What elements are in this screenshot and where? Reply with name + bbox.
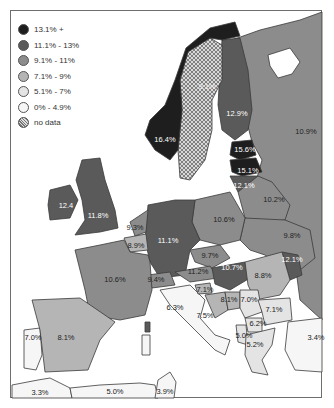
label-belarus: 10.2% xyxy=(263,195,285,204)
legend-label: 5.1% - 7% xyxy=(34,87,71,96)
label-lithuania: 12.1% xyxy=(233,181,255,190)
label-ireland: 12.4 xyxy=(59,201,74,210)
label-netherlands: 9.3% xyxy=(126,223,143,232)
label-albania: 5.0% xyxy=(235,331,252,340)
legend-hatch-icon xyxy=(18,117,29,128)
region-uk[interactable] xyxy=(75,158,118,235)
label-algeria: 5.0% xyxy=(106,387,123,396)
legend-item: no data xyxy=(18,115,128,131)
label-uk: 11.8% xyxy=(88,211,109,220)
label-ukraine: 9.8% xyxy=(283,231,300,240)
legend-label: 13.1% + xyxy=(34,25,64,34)
legend-item: 11.1% - 13% xyxy=(18,38,128,54)
legend-swatch-icon xyxy=(18,71,29,82)
region-turkey[interactable] xyxy=(285,318,322,372)
legend-swatch-icon xyxy=(18,55,29,66)
legend-label: 9.1% - 11% xyxy=(34,56,75,65)
label-tunisia: 3.9% xyxy=(156,387,173,396)
label-bosnia: 8.1% xyxy=(220,295,237,304)
label-serbia: 7.0% xyxy=(240,295,257,304)
label-portugal: 7.0% xyxy=(24,333,41,342)
legend-label: 7.1% - 9% xyxy=(34,72,71,81)
label-czech: 9.7% xyxy=(201,251,218,260)
label-latvia: 15.1% xyxy=(237,166,259,175)
legend-label: 0% - 4.9% xyxy=(34,103,71,112)
label-morocco: 3.3% xyxy=(31,388,48,397)
legend-item: 7.1% - 9% xyxy=(18,69,128,85)
label-russia: 10.9% xyxy=(295,127,317,136)
legend-label: no data xyxy=(34,118,61,127)
label-germany: 11.1% xyxy=(158,236,179,245)
label-romania: 8.8% xyxy=(254,271,271,280)
label-turkey: 3.4% xyxy=(307,333,324,342)
legend-swatch-icon xyxy=(18,102,29,113)
legend-swatch-icon xyxy=(18,86,29,97)
label-italy: 6.3% xyxy=(166,303,183,312)
label-moldova: 12.1% xyxy=(281,255,303,264)
label-slovenia: 7.1% xyxy=(196,285,213,294)
legend-item: 13.1% + xyxy=(18,22,128,38)
label-spain: 8.1% xyxy=(57,333,74,342)
label-austria: 11.2% xyxy=(188,267,209,276)
label-switzerland: 9.4% xyxy=(147,275,164,284)
label-estonia: 15.6% xyxy=(234,145,256,154)
legend-item: 5.1% - 7% xyxy=(18,84,128,100)
legend-swatch-icon xyxy=(18,40,29,51)
label-sweden: 9.1% xyxy=(198,82,215,91)
label-croatia: 7.5% xyxy=(196,311,213,320)
legend-item: 0% - 4.9% xyxy=(18,100,128,116)
label-greece: 5.2% xyxy=(246,340,263,349)
legend-swatch-icon xyxy=(18,24,29,35)
label-poland: 10.6% xyxy=(213,215,235,224)
label-hungary: 10.7% xyxy=(221,263,243,272)
label-belgium: 8.9% xyxy=(127,241,144,250)
legend-label: 11.1% - 13% xyxy=(34,41,79,50)
label-bulgaria: 7.1% xyxy=(265,305,282,314)
label-france: 10.6% xyxy=(104,275,126,284)
label-macedonia: 6.2% xyxy=(249,319,266,328)
map-legend: 13.1% + 11.1% - 13% 9.1% - 11% 7.1% - 9%… xyxy=(18,22,128,131)
legend-item: 9.1% - 11% xyxy=(18,53,128,69)
label-finland: 12.9% xyxy=(226,109,248,118)
label-norway: 16.4% xyxy=(154,135,176,144)
